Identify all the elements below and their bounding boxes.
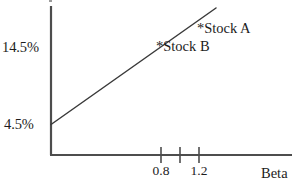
cropped-text-artifact [49,0,52,2]
y-axis-tick-label-high: 14.5% [2,40,39,55]
x-axis-title: Beta [261,166,288,181]
x-axis-tick-label-0.8: 0.8 [146,164,176,178]
x-axis-tick-label-1.2: 1.2 [184,164,214,178]
chart-canvas [0,0,303,187]
security-market-line-chart: 14.5% 4.5% 0.8 1.2 Beta *Stock A *Stock … [0,0,303,187]
data-point-label-stock-b: *Stock B [156,39,210,54]
data-point-label-stock-a: *Stock A [197,21,251,36]
security-market-line [51,8,216,125]
y-axis-tick-label-low: 4.5% [4,117,34,132]
